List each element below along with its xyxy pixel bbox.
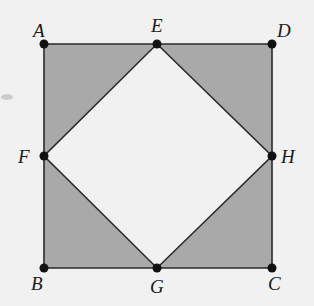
point-G <box>153 264 162 273</box>
label-H: H <box>280 146 296 167</box>
point-F <box>40 152 49 161</box>
point-H <box>268 152 277 161</box>
label-F: F <box>17 146 30 167</box>
geometry-diagram: A E D F H B G C <box>0 0 314 306</box>
label-B: B <box>31 273 43 294</box>
label-C: C <box>268 273 281 294</box>
scan-smudge <box>1 94 13 100</box>
label-D: D <box>276 20 291 41</box>
label-G: G <box>150 276 164 297</box>
point-B <box>40 264 49 273</box>
shaded-regions <box>44 44 272 268</box>
point-E <box>153 40 162 49</box>
point-D <box>268 40 277 49</box>
label-A: A <box>31 20 45 41</box>
label-E: E <box>150 15 163 36</box>
point-C <box>268 264 277 273</box>
